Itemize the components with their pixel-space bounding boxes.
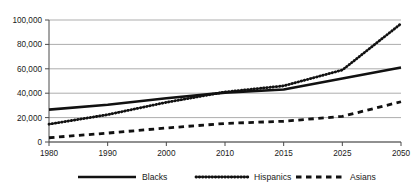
series-line-blacks xyxy=(49,68,401,110)
y-tick-label: 100,000 xyxy=(12,16,42,25)
legend-label-asians: Asians xyxy=(350,172,376,182)
x-tick-label: 2025 xyxy=(333,149,352,158)
x-tick-label: 2000 xyxy=(157,149,176,158)
y-tick-label: 60,000 xyxy=(17,65,42,74)
x-tick-labels: 1980199020002010201520252050 xyxy=(40,149,411,158)
chart-canvas: 020,00040,00060,00080,000100,000 1980199… xyxy=(0,0,416,194)
x-tick-label: 2015 xyxy=(275,149,294,158)
y-tick-label: 80,000 xyxy=(17,40,42,49)
legend-label-hispanics: Hispanics xyxy=(254,172,291,182)
x-tick-label: 1990 xyxy=(99,149,118,158)
x-tick-label: 1980 xyxy=(40,149,59,158)
y-tick-label: 20,000 xyxy=(17,114,42,123)
chart-legend: BlacksHispanicsAsians xyxy=(78,172,376,182)
series-line-hispanics xyxy=(49,24,401,125)
x-tick-label: 2050 xyxy=(392,149,411,158)
population-projection-chart: 020,00040,00060,00080,000100,000 1980199… xyxy=(0,0,416,194)
series-line-asians xyxy=(49,102,401,138)
y-tick-label: 0 xyxy=(37,138,42,147)
data-series xyxy=(49,24,401,138)
y-tick-label: 40,000 xyxy=(17,89,42,98)
x-tick-label: 2010 xyxy=(216,149,235,158)
y-tick-labels: 020,00040,00060,00080,000100,000 xyxy=(12,16,42,147)
x-axis xyxy=(49,142,401,146)
gridlines xyxy=(49,20,401,142)
legend-label-blacks: Blacks xyxy=(142,172,167,182)
